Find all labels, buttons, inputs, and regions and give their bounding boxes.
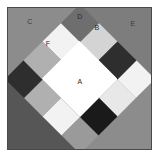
quilt-block-figure: ABCDEF	[0, 0, 159, 157]
quilt-block-frame: ABCDEF	[7, 7, 152, 150]
